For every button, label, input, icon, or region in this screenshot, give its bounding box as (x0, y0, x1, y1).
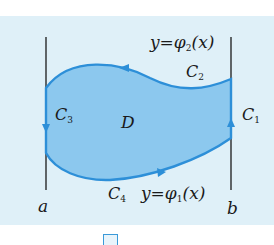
upper-equation: y=φ2(x) (149, 32, 214, 53)
label-c4: C4 (108, 184, 126, 204)
label-c1: C1 (242, 105, 260, 125)
label-b: b (227, 198, 238, 218)
lower-equation: y=φ1(x) (140, 183, 205, 204)
label-region-d: D (120, 112, 135, 132)
label-a: a (38, 196, 48, 216)
label-c2: C2 (186, 62, 204, 82)
partial-square-icon (103, 234, 118, 245)
